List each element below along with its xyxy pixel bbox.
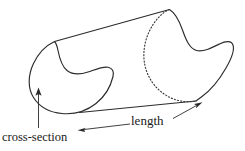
length-arrow-line-right xyxy=(173,106,197,119)
far-cross-section-face-hidden xyxy=(144,10,196,102)
length-arrow-line-left xyxy=(84,124,130,130)
geometry-figure: cross-section length xyxy=(0,0,245,151)
far-cross-section-face-visible xyxy=(170,10,234,102)
prism-diagram-svg xyxy=(0,0,245,151)
near-cross-section-face xyxy=(29,42,113,114)
length-arrow-head-right xyxy=(194,102,203,108)
cross-section-label: cross-section xyxy=(2,131,67,144)
length-label: length xyxy=(131,114,164,127)
